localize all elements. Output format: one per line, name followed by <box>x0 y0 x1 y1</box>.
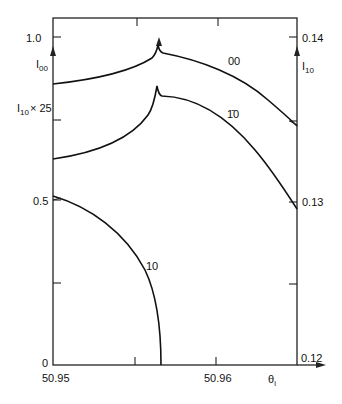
right-axis-arrowhead <box>294 46 300 56</box>
i00-label: I00 <box>36 58 49 73</box>
plot-frame <box>53 18 297 365</box>
chart: 1.0 0.5 0 I00 I10× 25 0.14 0.13 0.12 I10… <box>0 0 342 404</box>
x-label-50.95: 50.95 <box>42 372 70 384</box>
x-axis-title: θi <box>268 373 276 388</box>
annotation-minus-10: 1̄0 <box>227 108 239 120</box>
curve-minus-10 <box>53 86 297 209</box>
curve-00 <box>53 45 297 126</box>
y-right-label-0.12: 0.12 <box>301 352 322 364</box>
y-right-label-0.14: 0.14 <box>302 32 323 44</box>
annotation-10: 10 <box>146 260 158 272</box>
y-left-label-0.5: 0.5 <box>33 195 48 207</box>
y-left-label-1.0: 1.0 <box>26 32 41 44</box>
mid-arrowhead <box>156 37 162 46</box>
left-axis-arrowhead <box>50 46 56 56</box>
y-right-label-0.13: 0.13 <box>302 196 323 208</box>
curve-10 <box>53 196 161 365</box>
i10x25-label: I10× 25 <box>17 102 52 117</box>
x-label-50.96: 50.96 <box>204 372 232 384</box>
annotation-00: 00 <box>228 55 240 67</box>
i10-right-label: I10 <box>302 60 315 75</box>
y-left-label-0: 0 <box>42 357 48 369</box>
